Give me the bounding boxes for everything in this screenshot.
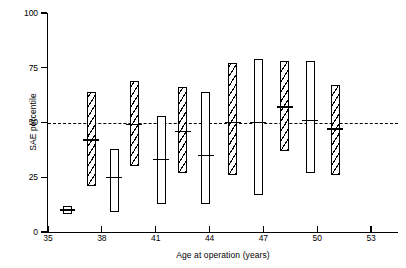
- range-bar-median-tick: [106, 177, 122, 178]
- x-axis-tick-label: 44: [205, 234, 214, 243]
- range-bar-median-tick: [225, 122, 241, 123]
- y-axis-tick: 75: [41, 67, 47, 68]
- range-bar-median-tick: [277, 106, 293, 107]
- y-axis-tick-label: 100: [24, 9, 38, 18]
- range-bar-median-tick: [126, 124, 142, 125]
- range-bar-median-tick: [250, 122, 266, 123]
- range-bar-median-tick: [198, 155, 214, 156]
- range-bar: [331, 85, 340, 175]
- y-axis-tick-label: 25: [29, 173, 38, 182]
- range-bar: [110, 149, 119, 213]
- x-axis-tick-label: 38: [97, 234, 106, 243]
- y-axis-tick: 100: [41, 12, 47, 13]
- range-bar-median-tick: [302, 120, 318, 121]
- x-axis-title: Age at operation (years): [48, 250, 398, 260]
- range-bar: [306, 61, 315, 173]
- range-bar-median-tick: [327, 128, 343, 129]
- x-axis-tick-label: 47: [259, 234, 268, 243]
- range-bar-median-tick: [153, 159, 169, 160]
- plot-area: [48, 13, 398, 232]
- y-axis-tick: 50: [41, 122, 47, 123]
- chart-figure: SAE percentile Age at operation (years) …: [0, 0, 406, 268]
- range-bar: [254, 59, 263, 195]
- x-axis-tick-label: 35: [43, 234, 52, 243]
- y-axis-tick-label: 50: [29, 118, 38, 127]
- y-axis-tick-label: 75: [29, 63, 38, 72]
- range-bar-median-tick: [175, 131, 191, 132]
- range-bar-median-tick: [83, 139, 99, 140]
- range-bar: [201, 92, 210, 204]
- range-bar: [228, 63, 237, 175]
- x-axis-tick-label: 41: [151, 234, 160, 243]
- x-axis-tick-label: 50: [313, 234, 322, 243]
- y-axis-tick: 25: [41, 177, 47, 178]
- y-axis-tick-label: 0: [33, 228, 38, 237]
- x-axis-tick-label: 53: [366, 234, 375, 243]
- range-bar-median-tick: [60, 209, 75, 210]
